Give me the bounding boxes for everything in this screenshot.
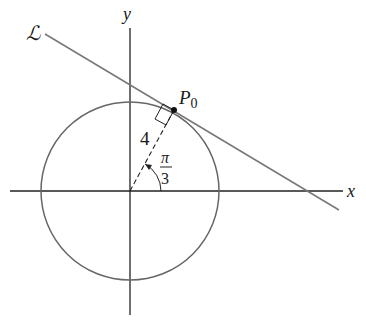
tangent-line <box>45 34 339 210</box>
angle-arrowhead-icon <box>145 164 152 170</box>
point-label-subscript: 0 <box>191 96 198 111</box>
angle-arc <box>145 164 161 191</box>
y-axis-label: y <box>121 4 131 24</box>
angle-denominator: 3 <box>161 170 169 187</box>
line-label: ℒ <box>26 22 41 44</box>
diagram-canvas: y x ℒ P0 4 π 3 <box>0 0 366 320</box>
radius-label: 4 <box>140 128 150 149</box>
angle-numerator: π <box>161 149 170 166</box>
x-axis-label: x <box>346 181 355 201</box>
point-label-main: P <box>178 87 191 108</box>
point-p0 <box>171 107 177 113</box>
point-label: P0 <box>178 87 198 111</box>
